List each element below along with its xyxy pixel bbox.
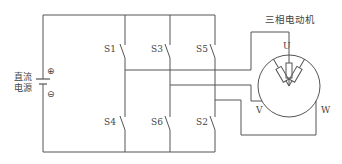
positive-terminal-icon: ⊕ [47, 67, 55, 76]
bridge-leg-1 [120, 15, 125, 152]
switch-s5-label: S5 [196, 45, 208, 54]
terminal-v-label: V [256, 106, 263, 115]
dc-source [36, 15, 50, 152]
switch-s2-label: S2 [196, 118, 208, 127]
dc-source-label-line2: 电源 [14, 84, 32, 93]
motor-title: 三相电动机 [265, 15, 315, 25]
dc-source-label-line1: 直流 [14, 73, 32, 82]
switch-s4-label: S4 [104, 118, 116, 127]
bridge-leg-3 [210, 15, 215, 152]
bridge-leg-2 [165, 15, 170, 152]
switch-s1-label: S1 [104, 45, 116, 54]
switch-s6-label: S6 [151, 118, 163, 127]
wire-phase-w [215, 100, 316, 135]
terminal-w-label: W [321, 106, 330, 115]
negative-terminal-icon: ⊖ [47, 90, 55, 99]
wire-phase-v [170, 85, 262, 101]
switch-s3-label: S3 [151, 45, 163, 54]
three-phase-motor [258, 55, 320, 117]
terminal-u-label: U [283, 42, 291, 51]
